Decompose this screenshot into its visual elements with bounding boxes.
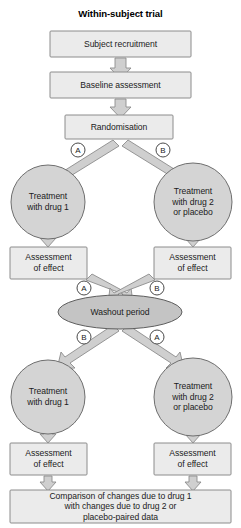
figure-canvas: Within-subject trial	[0, 0, 241, 528]
arrow-assessment-right2-to-comparison	[185, 476, 201, 491]
node-assessment-right-period1	[154, 247, 231, 279]
badge-circle-randomisation-right	[156, 143, 170, 157]
node-assessment-left-period1	[10, 247, 87, 279]
node-treatment-drug2-period2	[154, 358, 232, 436]
node-treatment-drug2-period1	[154, 163, 232, 241]
node-randomisation	[65, 115, 173, 139]
badge-circle-randomisation-left	[71, 143, 85, 157]
node-treatment-drug1-period1	[11, 165, 85, 239]
node-assessment-right-period2	[154, 443, 231, 475]
node-comparison	[10, 490, 231, 523]
badge-circle-washout-out-left	[77, 330, 91, 344]
node-assessment-left-period2	[10, 443, 87, 475]
figure-title: Within-subject trial	[0, 8, 241, 19]
node-treatment-drug1-period2	[11, 360, 85, 434]
badge-circle-washout-in-left	[77, 281, 91, 295]
arrow-assessment-left2-to-comparison	[40, 476, 56, 491]
flowchart-graphics	[0, 0, 241, 528]
badge-circle-washout-out-right	[150, 330, 164, 344]
node-baseline-assessment	[50, 72, 191, 98]
badge-circle-washout-in-right	[150, 281, 164, 295]
node-washout-period	[58, 295, 182, 329]
node-subject-recruitment	[50, 31, 191, 57]
